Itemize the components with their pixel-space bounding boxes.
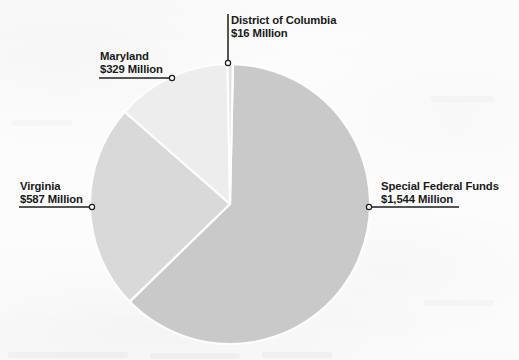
chart-page: District of Columbia $16 Million Marylan… [0, 0, 519, 360]
connector-dot-district-of-columbia [225, 60, 230, 65]
callout-label-name: District of Columbia [231, 14, 336, 26]
callout-maryland: Maryland $329 Million [100, 50, 163, 77]
callout-virginia: Virginia $587 Million [20, 180, 83, 207]
callout-label-value: $1,544 Million [381, 193, 499, 206]
connector-dot-maryland [169, 75, 174, 80]
callout-label-value: $329 Million [100, 63, 163, 76]
callout-label-name: Virginia [20, 180, 60, 192]
connector-dot-special-federal-funds [366, 204, 371, 209]
callout-district-of-columbia: District of Columbia $16 Million [231, 14, 336, 41]
callout-label-name: Maryland [100, 50, 149, 62]
callout-label-value: $587 Million [20, 193, 83, 206]
callout-label-value: $16 Million [231, 27, 336, 40]
pie-slice-group [90, 64, 370, 344]
callout-label-name: Special Federal Funds [381, 180, 499, 192]
callout-special-federal-funds: Special Federal Funds $1,544 Million [381, 180, 499, 207]
connector-dot-virginia [89, 204, 94, 209]
